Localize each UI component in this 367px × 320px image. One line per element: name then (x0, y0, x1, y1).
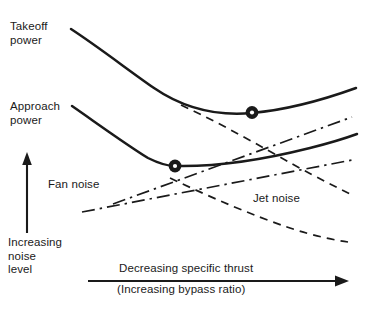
marker-approach-optimum (169, 160, 182, 173)
marker-takeoff-optimum (246, 106, 259, 119)
y-axis-label: Increasing noise level (8, 236, 62, 277)
noise-vs-specific-thrust-figure: Takeoff power Approach power Fan noise J… (0, 0, 367, 320)
jet-noise-curve-approach (170, 178, 348, 242)
jet-noise-label: Jet noise (253, 192, 300, 206)
approach-power-curve (72, 106, 357, 166)
x-axis-label-sub: (Increasing bypass ratio) (117, 283, 245, 297)
takeoff-power-curve (71, 29, 356, 114)
fan-noise-line-approach (82, 160, 352, 212)
fan-noise-label: Fan noise (48, 178, 99, 192)
approach-power-label: Approach power (10, 100, 60, 127)
takeoff-power-label: Takeoff power (10, 20, 48, 47)
x-axis-label-main: Decreasing specific thrust (119, 262, 253, 276)
optimum-markers (169, 106, 259, 172)
jet-noise-curve-takeoff (181, 105, 350, 194)
y-axis-arrowhead (22, 152, 32, 165)
x-axis-arrowhead (335, 276, 349, 287)
